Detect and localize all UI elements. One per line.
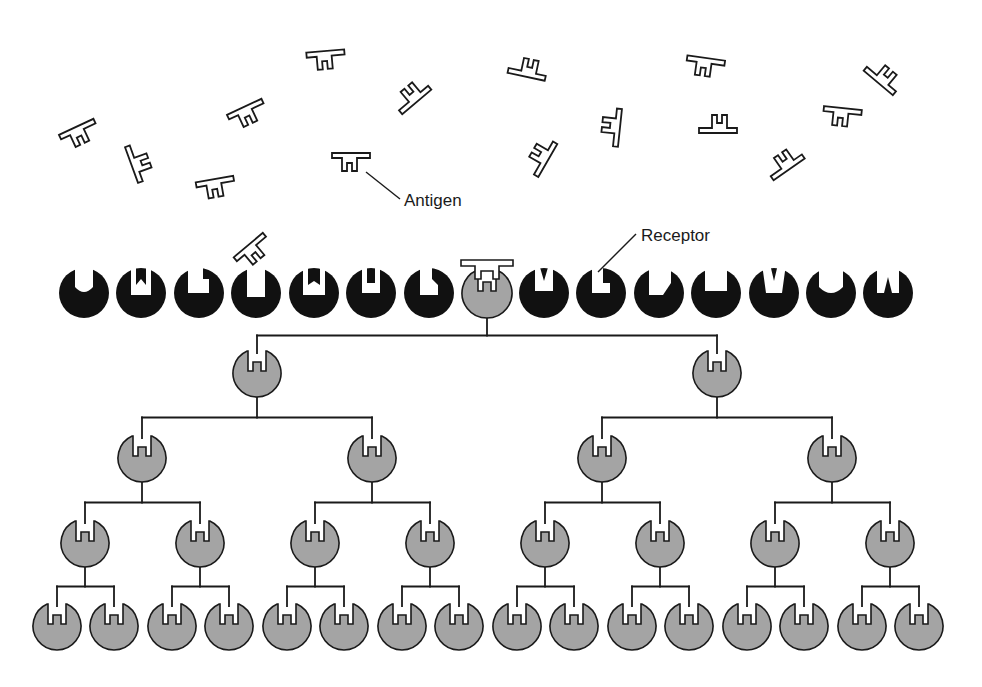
receptor-label: Receptor: [641, 227, 710, 244]
receptor-icon: [576, 268, 626, 318]
clone-cell: [263, 604, 311, 650]
resting-lymphocyte: [691, 268, 741, 318]
resting-lymphocyte: [231, 268, 281, 318]
antigen-icon: [234, 233, 275, 271]
cell-body: [780, 604, 828, 650]
clone-cell: [176, 521, 224, 567]
resting-lymphocyte: [806, 268, 856, 318]
clone-cell: [636, 521, 684, 567]
clone-cell: [148, 604, 196, 650]
clone-cell: [348, 436, 396, 482]
cell-body: [578, 436, 626, 482]
antigen-icon: [508, 55, 549, 81]
cell-body: [90, 604, 138, 650]
receptor-icon: [59, 268, 109, 318]
clone-cell: [808, 436, 856, 482]
receptor-icon: [691, 268, 741, 318]
cell-body: [378, 604, 426, 650]
clone-cell: [233, 351, 281, 397]
cell-body: [895, 604, 943, 650]
receptor-leader-line: [598, 234, 636, 272]
resting-lymphocyte: [116, 268, 166, 318]
resting-lymphocyte: [634, 268, 684, 318]
clone-cell: [838, 604, 886, 650]
cell-body: [33, 604, 81, 650]
resting-lymphocyte: [346, 268, 396, 318]
antigen-label: Antigen: [404, 192, 462, 209]
antigen-icon: [332, 153, 370, 171]
cell-body: [693, 351, 741, 397]
antigen-icon: [864, 57, 905, 95]
cell-body: [406, 521, 454, 567]
clone-cell: [578, 436, 626, 482]
cell-body: [808, 436, 856, 482]
cell-body: [205, 604, 253, 650]
receptor-icon: [289, 268, 339, 318]
antigen-icon: [699, 115, 737, 133]
clone-cell: [118, 436, 166, 482]
cell-body: [866, 521, 914, 567]
resting-lymphocyte: [576, 268, 626, 318]
cell-body: [665, 604, 713, 650]
clone-cell: [493, 604, 541, 650]
cell-body: [636, 521, 684, 567]
resting-lymphocyte: [749, 268, 799, 318]
clone-cell: [33, 604, 81, 650]
cell-body: [838, 604, 886, 650]
label-leader-lines: [366, 172, 636, 272]
antigen-icon: [227, 99, 269, 131]
antigen-icon: [391, 76, 432, 114]
receptor-icon: [749, 268, 799, 318]
cell-body: [61, 521, 109, 567]
resting-lymphocyte: [863, 268, 913, 318]
receptor-icon: [346, 268, 396, 318]
receptor-icon: [116, 268, 166, 318]
receptor-icon: [806, 268, 856, 318]
antigen-icon: [685, 55, 725, 78]
receptor-icon: [634, 268, 684, 318]
cell-body: [320, 604, 368, 650]
antigen-icon: [523, 135, 558, 177]
cell-body: [233, 351, 281, 397]
antigen-icon: [196, 176, 237, 200]
cell-body: [608, 604, 656, 650]
antigen-icon: [59, 119, 101, 151]
clone-cell: [291, 521, 339, 567]
receptor-cell-row: [59, 260, 913, 318]
antigen-icon: [822, 106, 862, 128]
clone-cell: [780, 604, 828, 650]
clone-cell: [693, 351, 741, 397]
resting-lymphocyte: [59, 268, 109, 318]
receptor-icon: [174, 268, 224, 318]
clone-cell: [550, 604, 598, 650]
free-antigens: [59, 49, 904, 271]
clone-cell: [320, 604, 368, 650]
receptor-icon: [863, 268, 913, 318]
clone-cell: [866, 521, 914, 567]
resting-lymphocyte: [174, 268, 224, 318]
cell-body: [291, 521, 339, 567]
receptor-icon: [231, 268, 281, 318]
receptor-icon: [404, 268, 454, 318]
antigen-leader-line: [366, 172, 400, 199]
cell-body: [521, 521, 569, 567]
clone-cell: [406, 521, 454, 567]
clonal-selection-diagram: Antigen Receptor: [0, 0, 982, 687]
clone-cell: [435, 604, 483, 650]
resting-lymphocyte: [519, 268, 569, 318]
clone-cell: [665, 604, 713, 650]
clone-cell: [751, 521, 799, 567]
antigen-icon: [125, 141, 155, 183]
cell-body: [118, 436, 166, 482]
cell-body: [751, 521, 799, 567]
antigen-icon: [600, 107, 622, 147]
cell-body: [550, 604, 598, 650]
antigen-icon: [763, 144, 804, 181]
cell-body: [723, 604, 771, 650]
clone-tree-cells: [33, 351, 943, 650]
clone-cell: [61, 521, 109, 567]
selected-receptor-cell: [462, 270, 512, 318]
receptor-icon: [519, 268, 569, 318]
cell-body: [348, 436, 396, 482]
clone-cell: [378, 604, 426, 650]
